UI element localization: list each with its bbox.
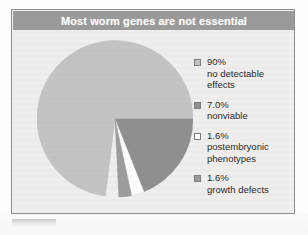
- legend-value: 90%: [207, 56, 264, 68]
- legend-desc-line: growth defects: [207, 184, 269, 196]
- legend-value: 7.0%: [207, 99, 248, 111]
- legend-desc-line: postembryonic: [207, 141, 269, 153]
- legend-label-growth-defects: 1.6% growth defects: [207, 172, 269, 195]
- legend-desc-line: effects: [207, 79, 264, 91]
- legend-value: 1.6%: [207, 172, 269, 184]
- legend-label-postembryonic-phenotypes: 1.6% postembryonic phenotypes: [207, 130, 269, 165]
- chart-title-bar: Most worm genes are not essential: [13, 11, 295, 30]
- pie-chart-svg: [37, 36, 193, 202]
- chart-legend: 90% no detectable effects 7.0% nonviable: [194, 56, 294, 203]
- legend-value: 1.6%: [207, 130, 269, 142]
- legend-desc-line: nonviable: [207, 110, 248, 122]
- legend-swatch-icon-postembryonic-phenotypes: [194, 133, 201, 140]
- legend-label-no-detectable-effects: 90% no detectable effects: [207, 56, 264, 91]
- scan-artifact: [12, 219, 56, 227]
- legend-swatch-icon-no-detectable-effects: [194, 59, 201, 66]
- figure-frame: Most worm genes are not essential: [11, 9, 295, 214]
- plot-area: 90% no detectable effects 7.0% nonviable: [13, 30, 295, 213]
- pie-chart: [37, 36, 193, 202]
- legend-desc-line: phenotypes: [207, 153, 269, 165]
- legend-item-postembryonic-phenotypes: 1.6% postembryonic phenotypes: [194, 130, 294, 165]
- legend-swatch-icon-growth-defects: [194, 175, 201, 182]
- chart-title: Most worm genes are not essential: [61, 15, 247, 27]
- legend-swatch-icon-nonviable: [194, 102, 201, 109]
- legend-item-growth-defects: 1.6% growth defects: [194, 172, 294, 195]
- legend-desc-line: no detectable: [207, 68, 264, 80]
- legend-item-no-detectable-effects: 90% no detectable effects: [194, 56, 294, 91]
- legend-item-nonviable: 7.0% nonviable: [194, 99, 294, 122]
- figure-page: Most worm genes are not essential: [0, 0, 308, 235]
- legend-label-nonviable: 7.0% nonviable: [207, 99, 248, 122]
